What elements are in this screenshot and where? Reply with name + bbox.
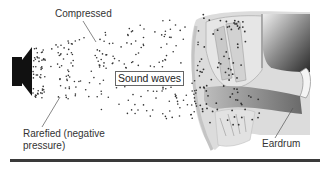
eardrum-label: Eardrum <box>262 138 300 150</box>
bottom-rule <box>10 159 320 162</box>
ear-anatomy <box>191 11 310 150</box>
compressed-label: Compressed <box>55 8 112 20</box>
sound-waves-label: Sound waves <box>115 71 184 86</box>
speaker-icon <box>12 47 32 96</box>
rarefied-leader-line <box>42 97 60 127</box>
sound-wave-diagram: Compressed Sound waves Rarefied (negativ… <box>0 0 329 170</box>
rarefied-label-line2: pressure) <box>23 140 65 152</box>
compressed-leader-line <box>83 21 96 42</box>
rarefied-label-line1: Rarefied (negative <box>23 128 105 140</box>
